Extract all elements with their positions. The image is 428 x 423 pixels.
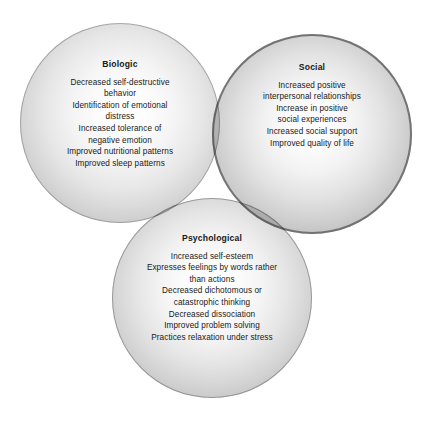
list-item-line1: Improved quality of life bbox=[270, 139, 354, 148]
list-item-line2: than actions bbox=[116, 274, 308, 286]
list-item-line1: Increase in positive bbox=[276, 104, 348, 113]
list-item: Improved sleep patterns bbox=[28, 158, 212, 170]
list-item-line2: negative emotion bbox=[28, 135, 212, 147]
list-item: Decreased dissociation bbox=[116, 309, 308, 321]
venn-items-biologic: Decreased self-destructive behavior Iden… bbox=[28, 77, 212, 170]
list-item-line1: Decreased self-destructive bbox=[70, 78, 169, 87]
list-item-line2: distress bbox=[28, 111, 212, 123]
list-item-line1: Increased tolerance of bbox=[79, 124, 162, 133]
list-item: Practices relaxation under stress bbox=[116, 332, 308, 344]
venn-items-psychological: Increased self-esteem Expresses feelings… bbox=[116, 251, 308, 344]
list-item-line2: behavior bbox=[28, 88, 212, 100]
list-item: Improved nutritional patterns bbox=[28, 146, 212, 158]
list-item-line1: Improved nutritional patterns bbox=[67, 147, 173, 156]
venn-label-group-biologic: Biologic Decreased self-destructive beha… bbox=[28, 59, 212, 169]
list-item: Decreased dichotomous or catastrophic th… bbox=[116, 285, 308, 308]
list-item-line2: interpersonal relationships bbox=[222, 91, 402, 103]
list-item: Expresses feelings by words rather than … bbox=[116, 262, 308, 285]
list-item: Identification of emotional distress bbox=[28, 100, 212, 123]
venn-title-biologic: Biologic bbox=[28, 59, 212, 71]
list-item-line1: Expresses feelings by words rather bbox=[147, 263, 277, 272]
list-item-line1: Improved sleep patterns bbox=[75, 159, 165, 168]
list-item-line1: Improved problem solving bbox=[164, 321, 260, 330]
list-item: Increased tolerance of negative emotion bbox=[28, 123, 212, 146]
list-item-line1: Identification of emotional bbox=[72, 101, 167, 110]
list-item-line1: Decreased dissociation bbox=[169, 310, 255, 319]
venn-diagram: Biologic Decreased self-destructive beha… bbox=[0, 0, 428, 423]
list-item-line1: Increased self-esteem bbox=[171, 252, 253, 261]
list-item-line1: Increased positive bbox=[278, 81, 345, 90]
list-item-line1: Practices relaxation under stress bbox=[151, 333, 272, 342]
list-item-line2: social experiences bbox=[222, 114, 402, 126]
list-item: Increased social support bbox=[222, 126, 402, 138]
list-item-line2: catastrophic thinking bbox=[116, 297, 308, 309]
list-item: Increase in positive social experiences bbox=[222, 103, 402, 126]
list-item-line1: Increased social support bbox=[267, 127, 358, 136]
venn-label-group-social: Social Increased positive interpersonal … bbox=[222, 62, 402, 149]
venn-items-social: Increased positive interpersonal relatio… bbox=[222, 80, 402, 150]
list-item: Increased self-esteem bbox=[116, 251, 308, 263]
venn-title-social: Social bbox=[222, 62, 402, 74]
list-item: Improved quality of life bbox=[222, 138, 402, 150]
list-item: Increased positive interpersonal relatio… bbox=[222, 80, 402, 103]
venn-title-psychological: Psychological bbox=[116, 233, 308, 245]
list-item: Improved problem solving bbox=[116, 320, 308, 332]
list-item: Decreased self-destructive behavior bbox=[28, 77, 212, 100]
list-item-line1: Decreased dichotomous or bbox=[162, 286, 262, 295]
venn-label-group-psychological: Psychological Increased self-esteem Expr… bbox=[116, 233, 308, 343]
